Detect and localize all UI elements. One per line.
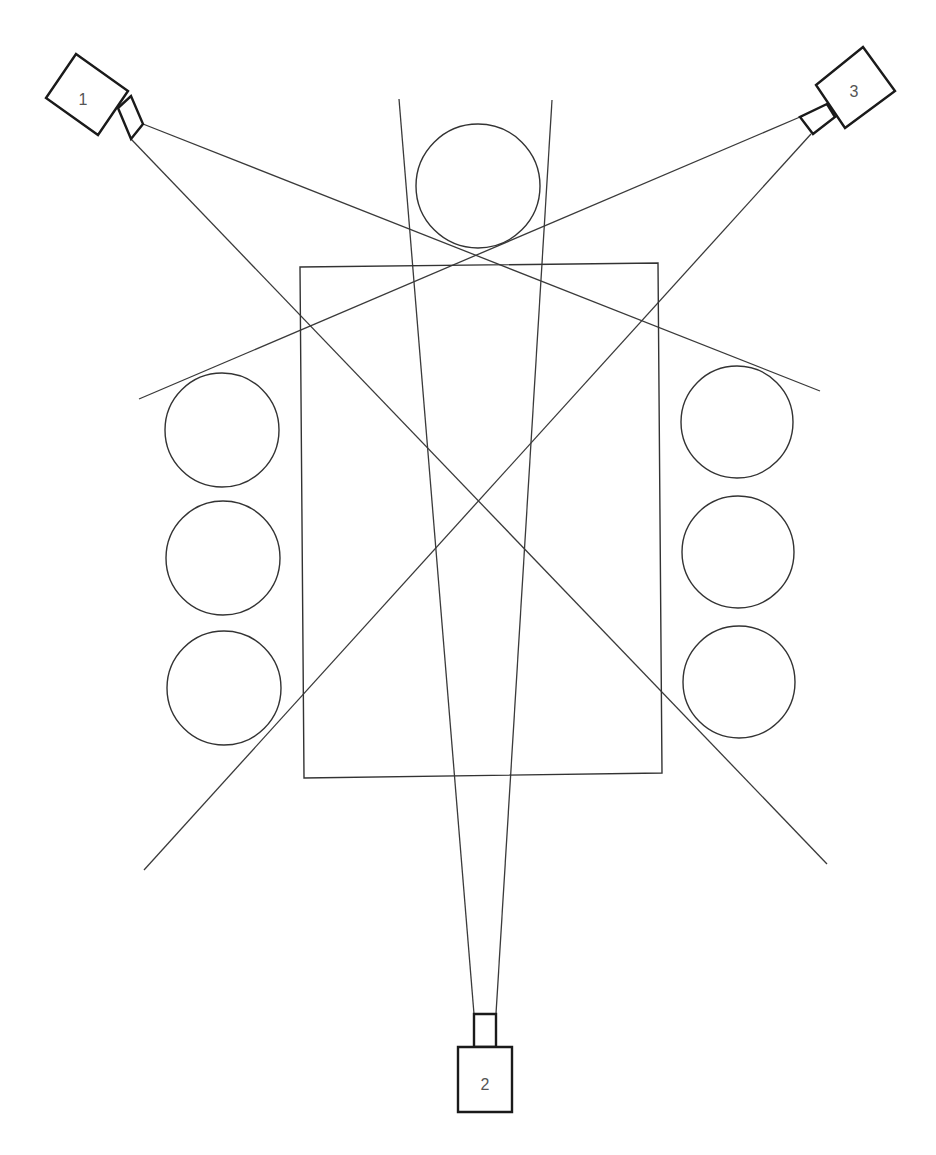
seat-circle-right-2: [682, 496, 794, 608]
table-rectangle: [300, 263, 662, 778]
camera-layout-diagram: 123: [0, 0, 936, 1155]
seat-circle-right-1: [681, 366, 793, 478]
cameras: 123: [46, 47, 895, 1112]
camera-lens-icon: [118, 96, 143, 139]
camera-3: 3: [800, 47, 895, 134]
seat-circle-left-2: [166, 501, 280, 615]
camera-lens-icon: [474, 1014, 496, 1047]
camera-2-view-line: [399, 99, 474, 1014]
camera-1: 1: [46, 54, 143, 139]
seat-circle-right-3: [683, 626, 795, 738]
camera-label: 2: [481, 1076, 490, 1093]
seat-circle-left-3: [167, 631, 281, 745]
camera-3-view-line: [144, 134, 811, 870]
camera-label: 3: [850, 83, 859, 100]
camera-2: 2: [458, 1014, 512, 1112]
seats: [165, 124, 795, 745]
camera-lens-icon: [800, 104, 835, 134]
seat-circle-top: [416, 124, 540, 248]
camera-2-view-line: [496, 100, 552, 1014]
camera-label: 1: [79, 91, 88, 108]
camera-view-lines: [131, 99, 827, 1014]
camera-3-view-line: [139, 117, 800, 399]
seat-circle-left-1: [165, 373, 279, 487]
